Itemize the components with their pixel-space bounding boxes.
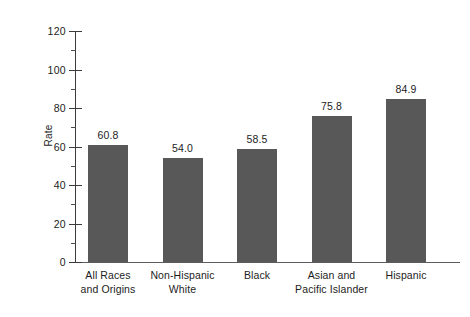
bar [163, 158, 203, 262]
y-axis-title: Rate [43, 106, 54, 166]
y-tick-major [69, 185, 82, 186]
y-tick-major [69, 108, 82, 109]
y-tick-minor [71, 89, 76, 90]
y-tick-minor [71, 243, 76, 244]
y-tick-label: 60 [54, 141, 66, 153]
bar-value-label: 75.8 [321, 100, 342, 112]
bar [312, 116, 352, 262]
x-category-label: Black [244, 268, 270, 282]
bar [237, 149, 277, 262]
y-tick-major [69, 147, 82, 148]
y-tick-label: 100 [48, 64, 66, 76]
x-category-label: Hispanic [385, 268, 426, 282]
y-tick-minor [71, 204, 76, 205]
plot-area: 020406080100120 60.854.058.575.884.9 [75, 28, 465, 264]
bar-value-label: 84.9 [395, 83, 416, 95]
y-tick-label: 0 [60, 256, 66, 268]
bar-value-label: 54.0 [172, 142, 193, 154]
x-axis-line [75, 262, 460, 263]
x-category-label: Non-HispanicWhite [150, 268, 214, 296]
x-category-label: All Racesand Origins [81, 268, 136, 296]
bar [386, 99, 426, 262]
bar-value-label: 60.8 [97, 129, 118, 141]
y-tick-major [69, 262, 82, 263]
y-tick-major [69, 31, 82, 32]
y-tick-label: 80 [54, 102, 66, 114]
y-tick-label: 120 [48, 25, 66, 37]
y-tick-label: 40 [54, 179, 66, 191]
bar [88, 145, 128, 262]
y-tick-minor [71, 50, 76, 51]
y-tick-minor [71, 127, 76, 128]
bar-value-label: 58.5 [246, 133, 267, 145]
y-tick-major [69, 224, 82, 225]
bar-chart: Rate 020406080100120 60.854.058.575.884.… [0, 0, 470, 317]
y-tick-label: 20 [54, 218, 66, 230]
y-tick-major [69, 70, 82, 71]
x-category-label: Asian andPacific Islander [295, 268, 368, 296]
y-tick-minor [71, 166, 76, 167]
